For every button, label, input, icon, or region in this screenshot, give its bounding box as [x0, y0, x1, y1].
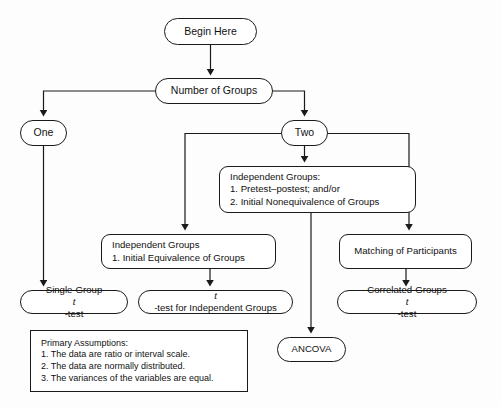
node-one[interactable]: One: [20, 120, 67, 146]
corr-t-italic: t: [346, 296, 468, 308]
single-group-t-italic: t: [29, 296, 119, 308]
node-independent-groups-pretest-line-3: 2. Initial Nonequivalence of Groups: [230, 196, 407, 208]
t-indep-italic: t: [147, 290, 284, 302]
node-begin-here-label: Begin Here: [173, 25, 248, 38]
node-single-group-t-test-label: Single-Group t-test: [29, 284, 119, 321]
corr-t-suffix: -test: [346, 308, 468, 320]
node-begin-here[interactable]: Begin Here: [164, 18, 257, 45]
node-ancova-label: ANCOVA: [286, 343, 337, 355]
single-group-t-suffix: -test: [29, 308, 119, 320]
corr-t-prefix: Correlated-Groups: [346, 284, 468, 296]
node-matching-of-participants-label: Matching of Participants: [348, 245, 463, 257]
node-number-of-groups[interactable]: Number of Groups: [155, 78, 273, 104]
node-independent-groups-equivalence-line-1: Independent Groups: [112, 239, 267, 251]
primary-assumptions-item-2: 2. The data are normally distributed.: [41, 361, 239, 373]
node-correlated-groups-t-test[interactable]: Correlated-Groups t-test: [337, 290, 477, 314]
node-independent-groups-equivalence[interactable]: Independent Groups 1. Initial Equivalenc…: [101, 234, 276, 269]
node-correlated-groups-t-test-label: Correlated-Groups t-test: [346, 284, 468, 321]
node-independent-groups-equivalence-line-2: 1. Initial Equivalence of Groups: [112, 252, 267, 264]
primary-assumptions-heading: Primary Assumptions:: [41, 338, 239, 350]
node-independent-groups-pretest-line-2: 1. Pretest–postest; and/or: [230, 183, 407, 195]
t-indep-suffix: -test for Independent Groups: [147, 302, 284, 314]
edge-groups-to-two: [273, 91, 305, 114]
node-one-label: One: [29, 126, 58, 139]
node-independent-groups-pretest[interactable]: Independent Groups: 1. Pretest–postest; …: [219, 166, 416, 213]
node-matching-of-participants[interactable]: Matching of Participants: [339, 234, 472, 269]
primary-assumptions-item-3: 3. The variances of the variables are eq…: [41, 373, 239, 385]
node-t-test-for-independent-groups[interactable]: t-test for Independent Groups: [138, 290, 293, 314]
node-two-label: Two: [290, 126, 319, 139]
node-number-of-groups-label: Number of Groups: [164, 84, 264, 97]
single-group-t-prefix: Single-Group: [29, 284, 119, 296]
node-ancova[interactable]: ANCOVA: [277, 337, 346, 362]
node-single-group-t-test[interactable]: Single-Group t-test: [20, 290, 128, 314]
primary-assumptions-item-1: 1. The data are ratio or interval scale.: [41, 349, 239, 361]
node-independent-groups-pretest-line-1: Independent Groups:: [230, 171, 407, 183]
node-t-test-for-independent-groups-label: t-test for Independent Groups: [147, 290, 284, 315]
flowchart-canvas: Begin Here Number of Groups One Two Inde…: [0, 0, 501, 407]
edge-groups-to-one: [44, 91, 156, 114]
node-two[interactable]: Two: [281, 120, 328, 146]
node-primary-assumptions: Primary Assumptions: 1. The data are rat…: [30, 330, 248, 392]
